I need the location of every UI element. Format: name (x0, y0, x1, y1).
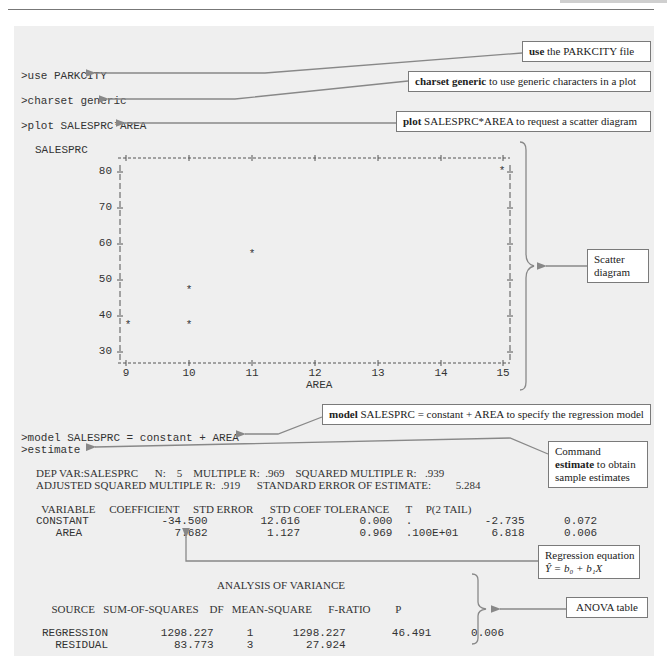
callout-estimate-line2: to obtain (594, 458, 636, 470)
x-tick-13: 13 (363, 367, 393, 379)
x-tick-14: 14 (426, 367, 456, 379)
coef-table-row-area: AREA 7.682 1.127 0.969 .100E+01 6.818 0.… (36, 527, 597, 539)
callout-estimate: Commandestimate to obtainsample estimate… (548, 441, 648, 488)
callout-scatter-line1: Scatter (594, 253, 625, 265)
y-tick-70: 70 (82, 201, 112, 213)
y-tick-60: 60 (82, 237, 112, 249)
x-tick-9: 9 (111, 367, 141, 379)
x-axis-label: AREA (306, 379, 332, 391)
callout-model-bold: model (329, 408, 358, 420)
command-model: >model SALESPRC = constant + AREA (21, 432, 239, 444)
callout-scatter-line2: diagram (594, 266, 630, 278)
callout-estimate-bold: estimate (555, 458, 594, 470)
command-use: >use PARKCITY (21, 70, 107, 82)
anova-title: ANALYSIS OF VARIANCE (217, 579, 345, 591)
callout-charset-text: to use generic characters in a plot (486, 75, 636, 87)
x-tick-10: 10 (174, 367, 204, 379)
header-bar (560, 0, 667, 3)
anova-header: SOURCE SUM-OF-SQUARES DF MEAN-SQUARE F-R… (46, 603, 401, 615)
y-axis-label: SALESPRC (35, 144, 88, 156)
summary-line-1: DEP VAR:SALESPRC N: 5 MULTIPLE R: .969 S… (36, 467, 444, 479)
y-tick-50: 50 (82, 273, 112, 285)
callout-use-text: the PARKCITY file (544, 45, 634, 57)
x-tick-15: 15 (488, 367, 518, 379)
callout-scatter: Scatterdiagram (587, 249, 649, 283)
callout-plot-text: SALESPRC*AREA to request a scatter diagr… (421, 115, 637, 127)
callout-charset-bold: charset generic (415, 75, 486, 87)
coef-table-row-constant: CONSTANT -34.500 12.616 0.000 . -2.735 0… (36, 515, 597, 527)
coef-table-header: VARIABLE COEFFICIENT STD ERROR STD COEF … (36, 503, 471, 515)
callout-model-text: SALESPRC = constant + AREA to specify th… (358, 408, 644, 420)
anova-row-regression: REGRESSION 1298.227 1 1298.227 46.491 0.… (42, 627, 504, 639)
data-point: * (184, 284, 194, 296)
command-plot: >plot SALESPRC*AREA (21, 120, 146, 132)
x-tick-12: 12 (300, 367, 330, 379)
summary-line-2: ADJUSTED SQUARED MULTIPLE R: .919 STANDA… (36, 479, 481, 491)
anova-row-residual: RESIDUAL 83.773 3 27.924 (42, 639, 346, 651)
y-tick-30: 30 (82, 345, 112, 357)
regression-equation: Ŷ = b₀ + b₁X (545, 562, 602, 574)
data-point: * (184, 319, 194, 331)
callout-anova: ANOVA table (566, 597, 648, 618)
y-tick-80: 80 (82, 165, 112, 177)
callout-regression-line1: Regression equation (545, 549, 635, 561)
callout-regression: Regression equationŶ = b₀ + b₁X (538, 545, 640, 579)
y-tick-40: 40 (82, 309, 112, 321)
data-point: * (247, 248, 257, 260)
callout-estimate-line1: Command (555, 445, 601, 457)
top-rule (8, 9, 654, 10)
data-point: * (497, 165, 507, 177)
command-estimate: >estimate (21, 444, 80, 456)
callout-plot: plot SALESPRC*AREA to request a scatter … (396, 111, 651, 132)
callout-model: model SALESPRC = constant + AREA to spec… (322, 404, 651, 425)
callout-estimate-line3: sample estimates (555, 471, 630, 483)
x-tick-11: 11 (237, 367, 267, 379)
callout-charset: charset generic to use generic character… (408, 71, 651, 92)
callout-plot-bold: plot (403, 115, 421, 127)
callout-use: use the PARKCITY file (522, 41, 651, 62)
callout-use-bold: use (529, 45, 544, 57)
command-charset: >charset generic (21, 95, 127, 107)
data-point: * (123, 319, 133, 331)
